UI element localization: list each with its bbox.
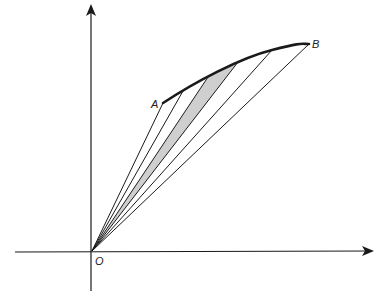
curve-AB <box>163 44 309 103</box>
label-A: A <box>150 98 158 110</box>
chord-OP1 <box>92 91 183 251</box>
chord-OP4 <box>92 50 272 251</box>
label-B: B <box>312 38 319 50</box>
chord-OA <box>92 103 163 251</box>
label-origin: O <box>95 255 104 267</box>
chord-OP3 <box>92 62 238 251</box>
x-axis <box>15 251 372 252</box>
diagram-canvas: A B O <box>0 0 386 305</box>
chord-OB <box>92 44 309 251</box>
chord-OP2 <box>92 77 208 251</box>
chords <box>92 44 309 251</box>
